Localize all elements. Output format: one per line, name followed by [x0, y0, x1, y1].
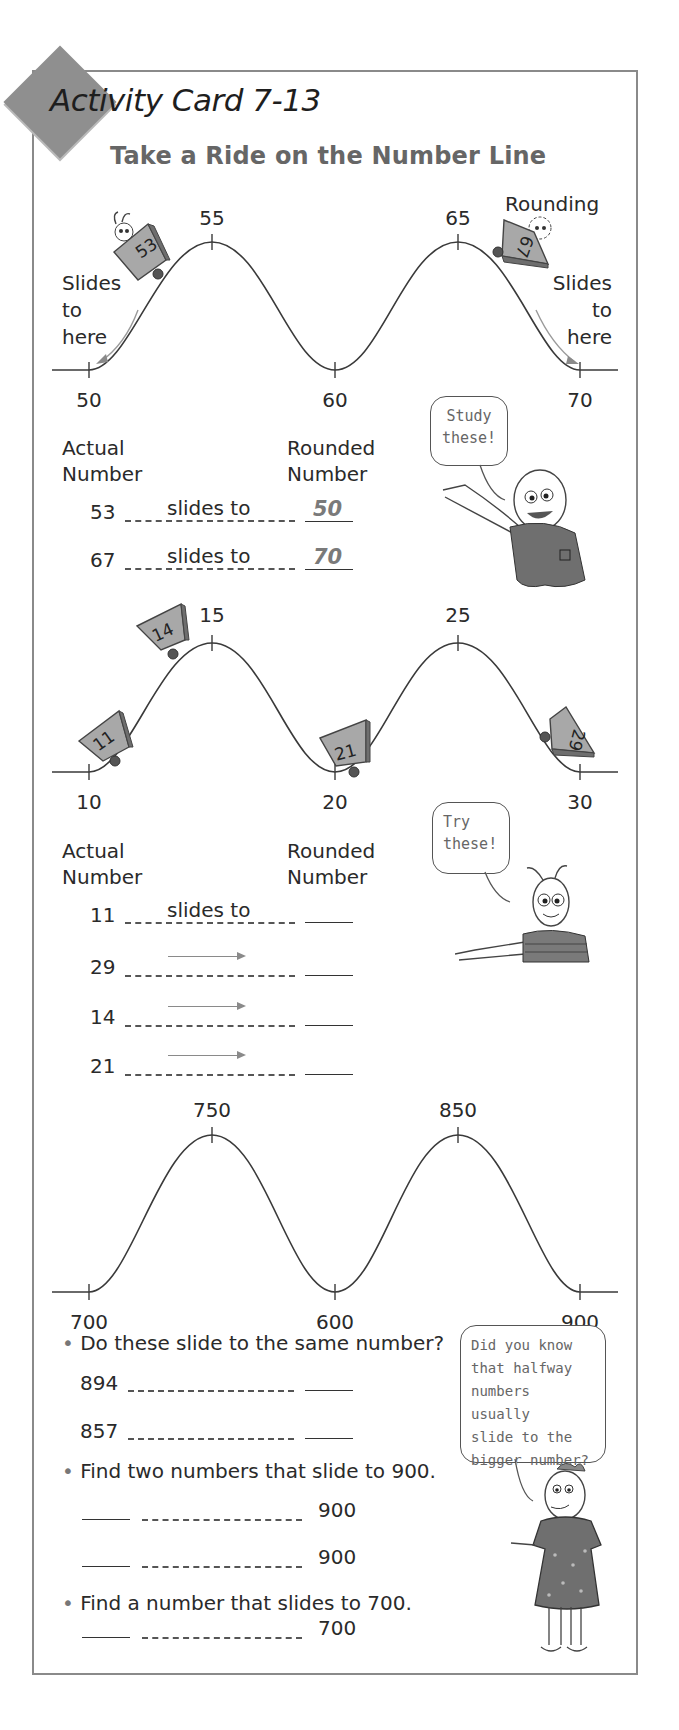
bubble-line: slide to the: [471, 1426, 595, 1449]
bubble-line: numbers usually: [471, 1380, 595, 1426]
answer-input-900-a[interactable]: [82, 1519, 130, 1520]
answer-input-700[interactable]: [82, 1637, 130, 1638]
question-text: Find a number that slides to 700.: [80, 1591, 412, 1615]
bubble-line: that halfway: [471, 1357, 595, 1380]
question-prompt: • Do these slide to the same number?: [62, 1331, 444, 1355]
monster-lady-character-icon: [505, 1455, 615, 1665]
dashed-connector: [142, 1566, 302, 1568]
dashed-connector: [128, 1438, 294, 1440]
answer-input-900-b[interactable]: [82, 1566, 130, 1567]
tick-label-top: 750: [193, 1098, 231, 1122]
bubble-line: Did you know: [471, 1334, 595, 1357]
target-number: 900: [318, 1498, 356, 1522]
question-prompt: • Find two numbers that slide to 900.: [62, 1459, 436, 1483]
question-text: Find two numbers that slide to 900.: [80, 1459, 436, 1483]
bullet-icon: •: [62, 1331, 74, 1355]
question-text: Do these slide to the same number?: [80, 1331, 444, 1355]
dashed-connector: [142, 1637, 302, 1639]
bullet-icon: •: [62, 1459, 74, 1483]
target-number: 900: [318, 1545, 356, 1569]
given-number: 894: [80, 1371, 118, 1395]
answer-input-894[interactable]: [305, 1390, 353, 1391]
target-number: 700: [318, 1616, 356, 1640]
dashed-connector: [142, 1519, 302, 1521]
bullet-icon: •: [62, 1591, 74, 1615]
dashed-connector: [128, 1390, 294, 1392]
answer-input-857[interactable]: [305, 1438, 353, 1439]
question-prompt: • Find a number that slides to 700.: [62, 1591, 412, 1615]
tick-label-top: 850: [439, 1098, 477, 1122]
given-number: 857: [80, 1419, 118, 1443]
speech-bubble-did-you-know: Did you know that halfway numbers usuall…: [460, 1325, 606, 1463]
